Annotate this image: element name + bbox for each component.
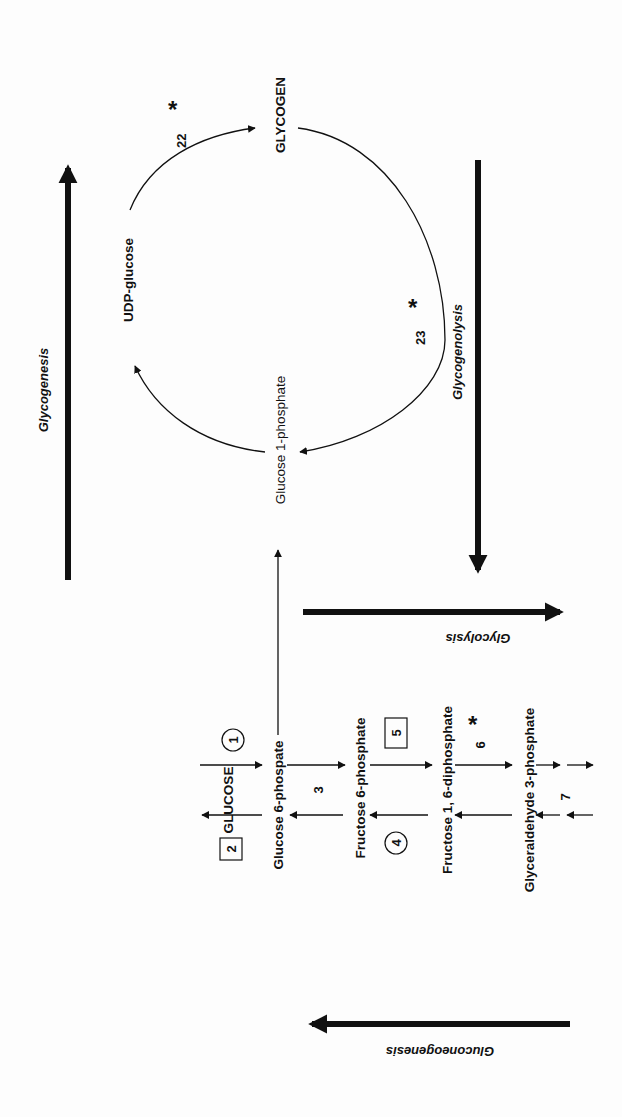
glycogenolysis-label: Glycogenolysis xyxy=(450,304,465,400)
pathway-diagram: Glycogenesis Glycogenolysis Glycolysis G… xyxy=(0,0,622,1117)
enzyme-5-marker: 5 xyxy=(385,718,407,748)
arc-g1p-to-udp xyxy=(135,366,265,452)
arc-glycogen-to-g1p xyxy=(298,128,445,452)
metabolite-udp-glucose: UDP-glucose xyxy=(121,238,136,323)
metabolite-glycogen: GLYCOGEN xyxy=(273,77,288,153)
enzyme-6-label: 6 xyxy=(473,741,488,748)
glycolysis-label: Glycolysis xyxy=(445,631,510,646)
enzyme-2-marker: 2 xyxy=(220,838,242,860)
glycogenesis-label: Glycogenesis xyxy=(36,348,51,433)
enzyme-1-marker: 1 xyxy=(222,729,244,751)
metabolite-glucose-6-phosphate: Glucose 6-phospate xyxy=(271,740,286,870)
gluconeogenesis-label: Gluconeogenesis xyxy=(386,1044,494,1059)
enzyme-4-marker: 4 xyxy=(385,832,407,854)
enzyme-23-star: * xyxy=(408,294,418,321)
svg-text:1: 1 xyxy=(226,736,241,743)
arc-udp-to-glycogen xyxy=(130,128,255,210)
metabolite-glyceraldehyde-3-phosphate: Glyceraldehyde 3-phosphate xyxy=(522,707,537,892)
svg-text:5: 5 xyxy=(389,729,404,736)
svg-text:4: 4 xyxy=(389,839,404,847)
svg-text:2: 2 xyxy=(224,845,239,852)
enzyme-22-star: * xyxy=(168,96,178,123)
enzyme-22-label: 22 xyxy=(174,134,189,148)
metabolite-glucose-1-phosphate: Glucose 1-phosphate xyxy=(273,376,288,504)
metabolite-fructose-1-6-diphosphate: Fructose 1, 6-diphosphate xyxy=(440,705,455,874)
metabolite-glucose: GLUCOSE xyxy=(221,767,236,834)
enzyme-6-star: * xyxy=(468,711,478,738)
enzyme-23-label: 23 xyxy=(413,331,428,345)
enzyme-3-label: 3 xyxy=(311,786,326,793)
metabolite-fructose-6-phosphate: Fructose 6-phosphate xyxy=(353,717,368,859)
enzyme-7-label: 7 xyxy=(558,793,573,800)
